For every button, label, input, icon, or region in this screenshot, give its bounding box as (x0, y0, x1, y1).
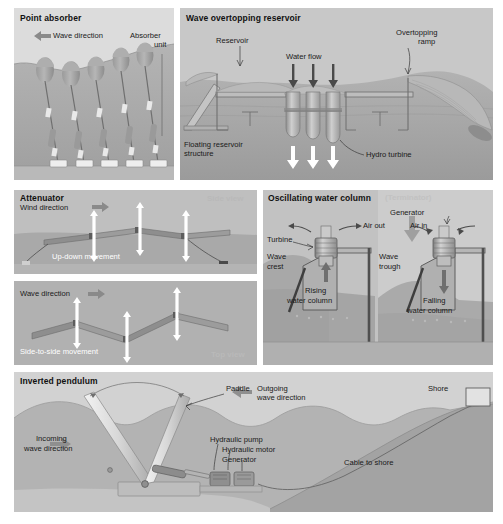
air-out-label: Air out (363, 221, 385, 230)
panel-title: Inverted pendulum (20, 376, 98, 386)
incoming-wave-label-line2: wave direction (24, 444, 73, 453)
view-label-top: Top view (211, 350, 245, 359)
wave-direction-label: Wave direction (20, 289, 70, 298)
panel-point-absorber: Point absorber Wave direction Absorber u… (14, 8, 174, 180)
panel-title: Attenuator (20, 193, 64, 203)
rising-water-column-label-line2: water column (287, 296, 332, 305)
floating-structure-label-line2: structure (184, 149, 214, 158)
rising-water-column-label-line1: Rising (305, 286, 326, 295)
shore-building (466, 388, 490, 406)
wave-crest-label-line1: Wave (267, 252, 286, 261)
shore-label: Shore (428, 384, 448, 393)
absorber-unit-label-line1: Absorber (130, 31, 161, 40)
overtopping-ramp-label-line1: Overtopping (396, 28, 437, 37)
generator-label: Generator (222, 455, 256, 464)
hydraulic-pump-label: Hydraulic pump (210, 435, 263, 444)
wave-trough-label-line1: Wave (379, 252, 398, 261)
floating-structure-label-line1: Floating reservoir (184, 140, 243, 149)
overtopping-ramp-label-line2: ramp (418, 37, 435, 46)
base-platform (118, 482, 200, 496)
hydraulic-motor-label: Hydraulic motor (222, 445, 275, 454)
wave-crest-label-line2: crest (267, 262, 283, 271)
owc-illustration (263, 190, 493, 365)
falling-water-column-label-line1: Falling (423, 296, 445, 305)
up-down-movement-label: Up-down movement (52, 252, 120, 261)
wave-direction-label: Wave direction (53, 31, 103, 40)
panel-attenuator-side-view: Attenuator Side view Wind direction Up-d… (14, 190, 257, 274)
falling-water-column-label-line2: water column (407, 306, 452, 315)
panel-subtitle: (Terminator) (385, 193, 432, 202)
side-to-side-movement-label: Side-to-side movement (20, 347, 98, 356)
panel-title: Wave overtopping reservoir (186, 13, 301, 23)
outgoing-wave-label-line2: wave direction (257, 393, 306, 402)
wave-trough-label-line2: trough (379, 262, 401, 271)
generator-label: Generator (390, 208, 424, 217)
incoming-wave-label-line1: Incoming (36, 434, 67, 443)
hydro-turbine-group (284, 92, 342, 143)
view-label-side: Side view (207, 194, 243, 203)
cable-to-shore-label: Cable to shore (344, 458, 393, 467)
hydro-turbine-label: Hydro turbine (366, 150, 412, 159)
air-in-label: Air in (410, 221, 427, 230)
turbine-label: Turbine (267, 235, 292, 244)
outgoing-wave-label-line1: Outgoing (257, 384, 288, 393)
absorber-unit-label-line2: unit (154, 40, 166, 49)
water-flow-outflow-arrows (287, 146, 339, 169)
panel-wave-overtopping-reservoir: Wave overtopping reservoir Reservoir Wat… (180, 8, 493, 180)
panel-title: Point absorber (20, 13, 81, 23)
panel-oscillating-water-column: Oscillating water column (Terminator) Tu… (263, 190, 493, 365)
panel-title: Oscillating water column (268, 193, 371, 203)
wind-direction-label: Wind direction (20, 203, 68, 212)
water-flow-label: Water flow (286, 52, 322, 61)
reservoir-label: Reservoir (216, 36, 249, 45)
paddle-label: Paddle (226, 384, 250, 393)
overtopping-reservoir-illustration (180, 8, 493, 180)
panel-attenuator-top-view: Wave direction Side-to-side movement Top… (14, 281, 257, 365)
panel-inverted-pendulum: Inverted pendulum Paddle Outgoing wave d… (14, 372, 493, 512)
